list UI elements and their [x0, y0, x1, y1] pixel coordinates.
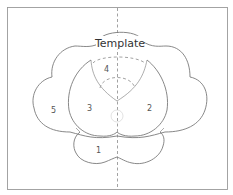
piece-3-label: 3 [87, 104, 92, 113]
piece-2-inner-edge [117, 60, 147, 101]
piece-4-label: 4 [104, 65, 109, 74]
piece-1-label: 1 [96, 146, 101, 155]
piece-5-label: 5 [51, 106, 56, 115]
piece-2-outline [117, 60, 168, 136]
template-diagram: Template 4 3 2 5 1 [0, 0, 233, 195]
right-joint [160, 128, 164, 132]
piece-4-outer-arc [93, 57, 145, 63]
piece-2-label: 2 [147, 104, 152, 113]
template-title: Template [94, 37, 145, 50]
center-circle [111, 110, 123, 122]
